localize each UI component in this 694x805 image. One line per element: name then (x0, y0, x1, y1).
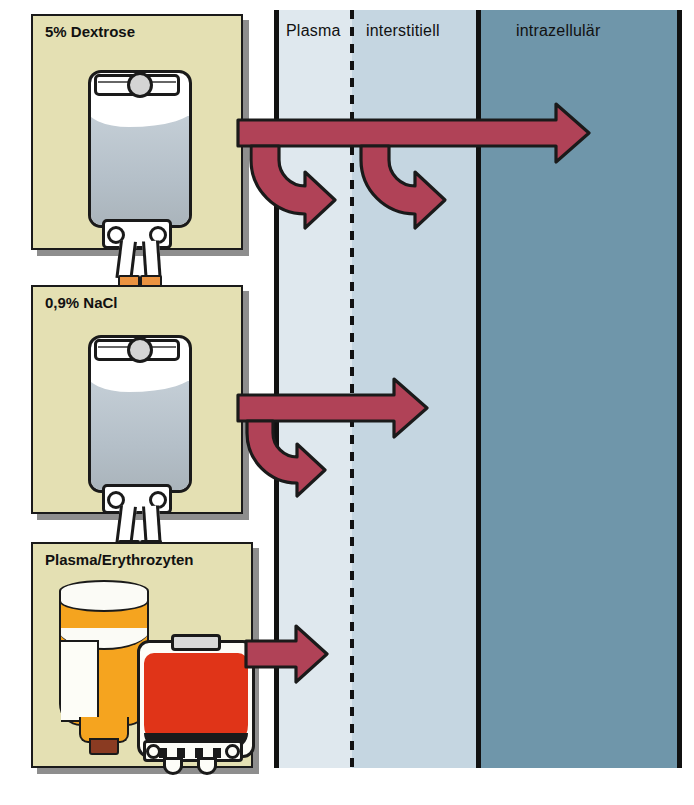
divider-right-border (677, 10, 682, 768)
column-label-plasma: Plasma (286, 22, 341, 40)
panel-blood-products: Plasma/Erythrozyten (31, 542, 253, 768)
compartment-column-interstitiell (352, 10, 478, 768)
plasma-bottle-icon (59, 580, 145, 732)
column-label-interstitiell: interstitiell (366, 22, 440, 40)
panel-title-nacl: 0,9% NaCl (45, 294, 118, 311)
iv-bag-dextrose-icon (88, 56, 186, 294)
panel-title-blood-products: Plasma/Erythrozyten (45, 551, 193, 568)
panel-title-dextrose: 5% Dextrose (45, 23, 135, 40)
diagram-canvas: Plasma interstitiell intrazellulär 5% De… (0, 0, 694, 805)
compartment-column-intrazellulaer (481, 10, 677, 768)
panel-nacl: 0,9% NaCl (31, 285, 243, 514)
divider-dashed-plasma-interstitiell (350, 10, 354, 768)
divider-cell-membrane (476, 10, 481, 768)
divider-left-border (274, 10, 279, 768)
panel-dextrose: 5% Dextrose (31, 14, 243, 250)
compartment-column-plasma (279, 10, 352, 768)
erythrocyte-bag-icon (137, 634, 249, 760)
iv-bag-nacl-icon (88, 321, 186, 559)
column-label-intrazellulaer: intrazellulär (516, 22, 600, 40)
